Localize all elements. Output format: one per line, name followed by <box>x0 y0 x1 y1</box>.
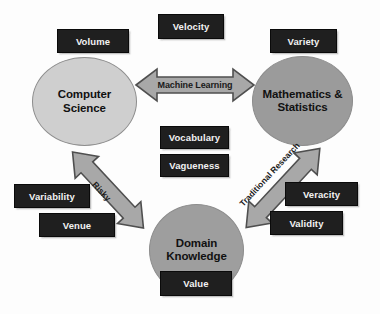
chip-variety: Variety <box>270 29 337 53</box>
chip-venue: Venue <box>39 213 115 237</box>
chip-vagueness: Vagueness <box>160 154 229 177</box>
node-domain-knowledge-label: Domain Knowledge <box>166 237 226 264</box>
arrow-machine-learning: Machine Learning <box>136 66 254 104</box>
node-mathematics-statistics-label: Mathematics & Statistics <box>263 88 343 115</box>
node-computer-science-label: Computer Science <box>58 88 112 115</box>
chip-variability: Variability <box>14 184 90 208</box>
diagram-canvas: Machine Learning Risky Traditional Resea… <box>0 0 380 314</box>
node-mathematics-statistics: Mathematics & Statistics <box>252 56 353 146</box>
chip-veracity: Veracity <box>285 182 358 206</box>
chip-value: Value <box>160 271 232 296</box>
chip-validity: Validity <box>270 211 343 235</box>
node-computer-science: Computer Science <box>32 57 137 146</box>
chip-volume: Volume <box>57 29 129 53</box>
chip-velocity: Velocity <box>158 14 224 39</box>
chip-vocabulary: Vocabulary <box>160 126 229 149</box>
